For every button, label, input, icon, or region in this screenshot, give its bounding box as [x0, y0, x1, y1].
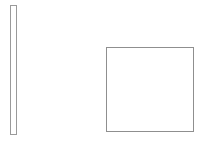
shapes-canvas[interactable] [0, 0, 204, 141]
shape-square[interactable] [106, 47, 194, 132]
shape-vertical-bar[interactable] [10, 5, 17, 135]
